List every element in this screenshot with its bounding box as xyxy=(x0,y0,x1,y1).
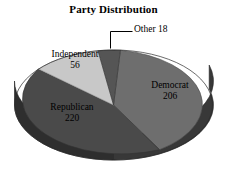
slice-label-democrat-value: 206 xyxy=(137,91,203,102)
slice-label-democrat: Democrat 206 xyxy=(137,80,203,102)
slice-label-republican-value: 220 xyxy=(36,113,108,124)
slice-label-other-value: 18 xyxy=(158,24,168,34)
slice-label-republican-name: Republican xyxy=(36,102,108,113)
slice-label-other: Other 18 xyxy=(134,24,196,35)
other-leader-line xyxy=(111,32,133,49)
slice-label-republican: Republican 220 xyxy=(36,102,108,124)
slice-label-independent: Independent 56 xyxy=(35,49,115,71)
slice-label-independent-name: Independent xyxy=(35,49,115,60)
slice-label-democrat-name: Democrat xyxy=(137,80,203,91)
slice-label-other-name: Other xyxy=(134,24,156,34)
slice-label-independent-value: 56 xyxy=(35,60,115,71)
pie-chart-figure: Party Distribution Democrat 206 Republic… xyxy=(0,0,227,179)
